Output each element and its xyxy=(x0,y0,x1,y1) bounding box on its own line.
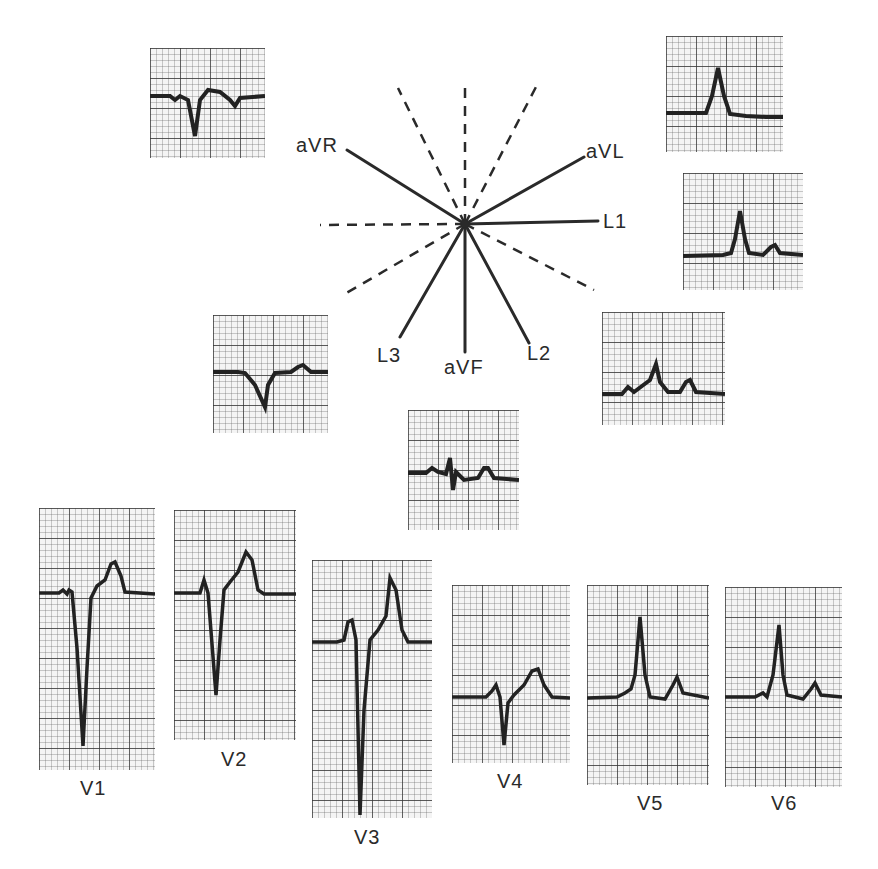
ecg-strip-l1 xyxy=(683,173,803,290)
axis-dashed-downright xyxy=(465,224,594,290)
ecg-strip-v6 xyxy=(725,587,842,787)
axis-dashed-upleft xyxy=(398,88,465,224)
axis-line-l2 xyxy=(465,224,529,343)
label-v3: V3 xyxy=(354,826,380,849)
label-l3: L3 xyxy=(377,344,401,367)
ecg-strip-l2 xyxy=(602,312,725,425)
ecg-strip-l3 xyxy=(213,315,328,433)
label-avl: aVL xyxy=(586,140,625,163)
label-l2: L2 xyxy=(527,342,551,365)
label-v4: V4 xyxy=(497,770,523,793)
ecg-strip-avl xyxy=(666,36,783,152)
axis-center xyxy=(461,220,469,228)
ecg-strip-v3 xyxy=(312,560,432,818)
label-avf: aVF xyxy=(444,356,484,379)
ecg-strip-v2 xyxy=(174,510,296,740)
axis-line-l1 xyxy=(465,221,598,224)
axis-dashed-downleft xyxy=(343,224,465,295)
label-l1: L1 xyxy=(603,210,627,233)
axis-line-avl xyxy=(465,157,584,224)
axis-dashed-left xyxy=(320,224,465,225)
ecg-strip-avr xyxy=(150,48,265,158)
label-v2: V2 xyxy=(221,748,247,771)
ecg-strip-v5 xyxy=(587,585,709,785)
ecg-strip-avf xyxy=(408,410,519,530)
ecg-strip-v4 xyxy=(452,585,570,763)
label-v5: V5 xyxy=(637,792,663,815)
label-v1: V1 xyxy=(80,777,106,800)
axis-line-l3 xyxy=(400,224,465,337)
label-v6: V6 xyxy=(771,792,797,815)
ecg-strip-v1 xyxy=(39,508,155,770)
label-avr: aVR xyxy=(296,134,338,157)
axis-dashed-upright xyxy=(465,85,537,224)
axis-line-avr xyxy=(347,150,465,224)
